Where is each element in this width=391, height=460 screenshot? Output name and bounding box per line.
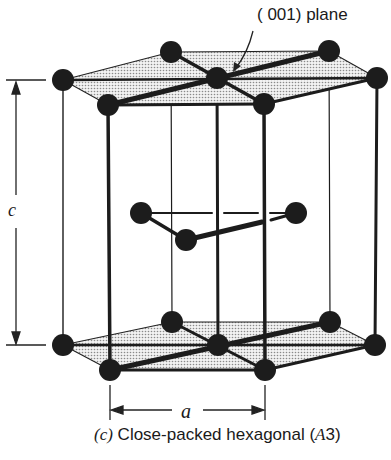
c-dimension-label: c: [8, 200, 16, 221]
hcp-unit-cell-diagram: [0, 0, 391, 460]
caption-text: Close-packed hexagonal (: [113, 425, 315, 444]
plane-label: ( 001) plane: [257, 5, 348, 25]
caption-prefix: (c): [94, 425, 113, 444]
a-dimension-label: a: [181, 400, 191, 423]
figure-caption: (c) Close-packed hexagonal (A3): [94, 425, 341, 445]
caption-italic: A: [315, 425, 325, 444]
caption-suffix: 3): [326, 425, 341, 444]
